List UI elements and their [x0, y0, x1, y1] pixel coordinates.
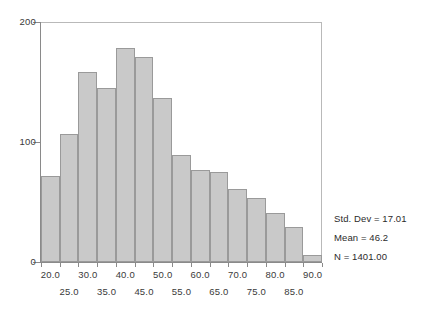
histogram-bar [116, 48, 135, 262]
x-axis-label: 85.0 [274, 286, 314, 297]
histogram-bar [41, 176, 60, 262]
y-axis-label: 0 [31, 256, 36, 267]
x-axis-tick [285, 263, 286, 267]
histogram-bar [266, 213, 285, 262]
x-axis-line [41, 262, 322, 263]
histogram-bar [153, 98, 172, 262]
x-axis-tick [41, 263, 42, 267]
histogram-bar [191, 170, 210, 262]
histogram-bar [210, 172, 229, 262]
stat-std-dev: Std. Dev = 17.01 [334, 209, 427, 228]
x-axis-label: 25.0 [49, 286, 89, 297]
x-axis-tick [153, 263, 154, 267]
x-axis-label: 45.0 [124, 286, 164, 297]
x-axis-tick [322, 263, 323, 267]
x-axis-label: 40.0 [105, 269, 145, 280]
histogram-bar [60, 134, 79, 262]
x-axis-tick [191, 263, 192, 267]
x-axis-label: 70.0 [218, 269, 258, 280]
x-axis-label: 30.0 [68, 269, 108, 280]
x-axis-label: 90.0 [293, 269, 333, 280]
histogram-chart: 0100200 20.030.040.050.060.070.080.090.0… [0, 0, 427, 312]
x-axis-tick [266, 263, 267, 267]
histogram-bar [285, 227, 304, 262]
x-axis-label: 50.0 [143, 269, 183, 280]
stat-mean: Mean = 46.2 [334, 228, 427, 247]
statistics-block: Std. Dev = 17.01 Mean = 46.2 N = 1401.00 [334, 209, 427, 266]
histogram-bar [172, 155, 191, 262]
x-axis-label: 60.0 [180, 269, 220, 280]
x-axis-label: 75.0 [236, 286, 276, 297]
x-axis-label: 65.0 [199, 286, 239, 297]
histogram-bar [247, 198, 266, 262]
histogram-bar [228, 189, 247, 262]
x-axis-tick [97, 263, 98, 267]
histogram-bar [303, 255, 322, 262]
y-axis-label: 100 [20, 136, 36, 147]
x-axis-tick [247, 263, 248, 267]
x-axis-tick [135, 263, 136, 267]
x-axis-tick [210, 263, 211, 267]
x-axis-tick [228, 263, 229, 267]
stat-n: N = 1401.00 [334, 247, 427, 266]
x-axis-tick [303, 263, 304, 267]
histogram-bar [135, 57, 154, 262]
x-axis-label: 55.0 [162, 286, 202, 297]
x-axis-label: 20.0 [30, 269, 70, 280]
x-axis-tick [172, 263, 173, 267]
x-axis-tick [116, 263, 117, 267]
x-axis-label: 80.0 [255, 269, 295, 280]
histogram-bar [78, 72, 97, 262]
x-axis-label: 35.0 [87, 286, 127, 297]
histogram-bar [97, 88, 116, 262]
y-axis-label: 200 [20, 16, 36, 27]
x-axis-tick [78, 263, 79, 267]
x-axis-tick [60, 263, 61, 267]
bar-series [41, 22, 322, 262]
